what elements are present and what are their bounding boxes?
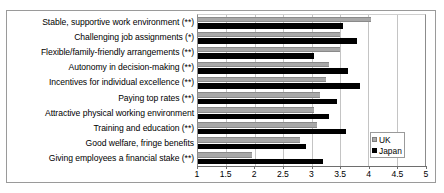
category-label: Autonomy in decision-making (**)	[11, 60, 196, 75]
bar-uk	[198, 122, 317, 128]
bar-japan	[198, 99, 337, 105]
legend-item-uk: UK	[372, 134, 402, 145]
bar-uk	[198, 32, 340, 38]
bar-uk	[198, 152, 252, 158]
chart-body: Stable, supportive work environment (**)…	[7, 11, 435, 182]
legend-label: UK	[379, 135, 391, 145]
axis-tick-label: 2	[252, 169, 257, 179]
bar-uk	[198, 107, 314, 113]
axis-tick-label: 1.5	[220, 169, 232, 179]
bar-uk	[198, 92, 320, 98]
bar-japan	[198, 68, 348, 74]
bar-uk	[198, 137, 300, 143]
category-label: Good welfare, fringe benefits	[11, 136, 196, 151]
category-label: Giving employees a financial stake (**)	[11, 151, 196, 166]
bar-japan	[198, 23, 343, 29]
bar-group	[198, 45, 425, 60]
bar-japan	[198, 144, 306, 150]
bar-group	[198, 75, 425, 90]
bar-japan	[198, 38, 357, 44]
bar-group	[198, 15, 425, 30]
bar-group	[198, 106, 425, 121]
legend-item-japan: Japan	[372, 145, 402, 156]
legend-swatch-uk	[372, 137, 377, 142]
category-label: Incentives for individual excellence (**…	[11, 75, 196, 90]
legend-swatch-japan	[372, 148, 377, 153]
axis-tick-label: 3	[309, 169, 314, 179]
axis-tick-label: 2.5	[277, 169, 289, 179]
chart-legend: UKJapan	[370, 132, 405, 158]
bar-japan	[198, 114, 329, 120]
chart-frame: Stable, supportive work environment (**)…	[6, 10, 436, 183]
bar-japan	[198, 129, 346, 135]
bar-group	[198, 60, 425, 75]
bar-group	[198, 30, 425, 45]
bar-uk	[198, 77, 326, 83]
category-label: Flexible/family-friendly arrangements (*…	[11, 44, 196, 59]
category-label: Training and education (**)	[11, 120, 196, 135]
value-axis: 11.522.533.544.55	[197, 166, 426, 182]
category-label: Challenging job assignments (*)	[11, 29, 196, 44]
axis-tick-label: 4	[366, 169, 371, 179]
legend-label: Japan	[379, 146, 402, 156]
bar-japan	[198, 83, 360, 89]
bar-japan	[198, 53, 314, 59]
bar-uk	[198, 47, 340, 53]
category-label: Attractive physical working environment	[11, 105, 196, 120]
axis-tick-label: 3.5	[334, 169, 346, 179]
bar-japan	[198, 159, 323, 165]
axis-tick-label: 1	[195, 169, 200, 179]
bar-group	[198, 90, 425, 105]
category-axis-labels: Stable, supportive work environment (**)…	[11, 14, 196, 166]
axis-tick-label: 5	[424, 169, 429, 179]
axis-tick-label: 4.5	[391, 169, 403, 179]
bar-uk	[198, 62, 329, 68]
category-label: Paying top rates (**)	[11, 90, 196, 105]
bar-uk	[198, 17, 371, 23]
category-label: Stable, supportive work environment (**)	[11, 14, 196, 29]
